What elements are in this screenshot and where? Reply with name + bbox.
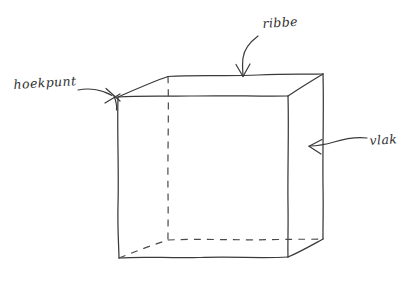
cube-diagram (0, 0, 418, 288)
vlak-arrowhead-lower (309, 146, 321, 154)
ribbe-annotation (236, 36, 258, 77)
right-bottom-receding-edge (288, 239, 323, 257)
front-bottom-edge (119, 257, 288, 258)
vlak-annotation (309, 138, 367, 154)
sketch-canvas: hoekpunt ribbe vlak (0, 0, 418, 288)
front-left-edge (118, 97, 119, 258)
label-ribbe: ribbe (262, 14, 298, 31)
top-back-edge (168, 74, 323, 77)
bottom-back-hidden-edge (168, 239, 323, 240)
label-vlak: vlak (369, 131, 398, 148)
cube-visible-edges (118, 74, 324, 258)
top-left-receding-edge (118, 77, 168, 98)
ribbe-arrowhead-right (243, 64, 250, 77)
cube-hidden-edges (119, 77, 323, 259)
bottom-left-hidden-receding-edge (119, 240, 168, 258)
hoekpunt-annotation (78, 89, 120, 111)
top-right-receding-edge (288, 74, 323, 96)
ribbe-arrowhead-left (236, 65, 243, 77)
front-top-edge (118, 96, 288, 97)
ribbe-leader-line (243, 36, 258, 76)
